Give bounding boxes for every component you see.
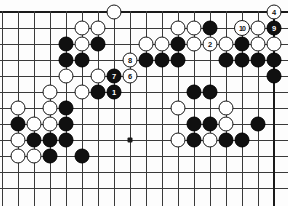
white-stone[interactable]	[43, 117, 58, 132]
go-board[interactable]: 109287614	[0, 0, 288, 206]
white-stone[interactable]	[75, 37, 90, 52]
move-stone-9[interactable]: 9	[267, 21, 282, 36]
black-stone[interactable]	[203, 85, 218, 100]
white-stone[interactable]	[27, 117, 42, 132]
black-stone[interactable]	[91, 37, 106, 52]
white-stone[interactable]	[219, 37, 234, 52]
move-stone-1[interactable]: 1	[107, 85, 122, 100]
black-stone[interactable]	[171, 37, 186, 52]
black-stone[interactable]	[75, 53, 90, 68]
black-stone[interactable]	[203, 21, 218, 36]
white-stone[interactable]	[139, 37, 154, 52]
white-stone[interactable]	[171, 101, 186, 116]
white-stone[interactable]	[251, 37, 266, 52]
white-stone[interactable]	[75, 85, 90, 100]
black-stone[interactable]	[187, 85, 202, 100]
white-stone[interactable]	[155, 37, 170, 52]
white-stone[interactable]	[107, 5, 122, 20]
white-stone[interactable]	[187, 37, 202, 52]
black-stone[interactable]	[235, 133, 250, 148]
white-stone[interactable]	[251, 21, 266, 36]
move-number-label: 1	[108, 86, 121, 99]
white-stone[interactable]	[11, 101, 26, 116]
black-stone[interactable]	[251, 53, 266, 68]
white-stone[interactable]	[75, 21, 90, 36]
white-stone[interactable]	[11, 149, 26, 164]
black-stone[interactable]	[59, 133, 74, 148]
black-stone[interactable]	[75, 149, 90, 164]
black-stone[interactable]	[59, 117, 74, 132]
white-stone[interactable]	[267, 37, 282, 52]
move-stone-7[interactable]: 7	[107, 69, 122, 84]
black-stone[interactable]	[43, 133, 58, 148]
move-number-label: 10	[235, 21, 249, 35]
move-stone-6[interactable]: 6	[123, 69, 138, 84]
black-stone[interactable]	[59, 53, 74, 68]
black-stone[interactable]	[27, 133, 42, 148]
move-stone-8[interactable]: 8	[123, 53, 138, 68]
stone-layer: 109287614	[0, 0, 288, 206]
white-stone[interactable]	[171, 21, 186, 36]
white-stone[interactable]	[171, 133, 186, 148]
white-stone[interactable]	[219, 101, 234, 116]
black-stone[interactable]	[187, 117, 202, 132]
move-stone-4[interactable]: 4	[267, 5, 282, 20]
white-stone[interactable]	[203, 133, 218, 148]
move-number-label: 4	[268, 6, 281, 19]
black-stone[interactable]	[91, 85, 106, 100]
move-stone-2[interactable]: 2	[203, 37, 218, 52]
black-stone[interactable]	[219, 133, 234, 148]
black-stone[interactable]	[235, 37, 250, 52]
black-stone[interactable]	[267, 53, 282, 68]
white-stone[interactable]	[91, 69, 106, 84]
black-stone[interactable]	[203, 117, 218, 132]
black-stone[interactable]	[267, 69, 282, 84]
move-number-label: 7	[108, 70, 121, 83]
white-stone[interactable]	[11, 133, 26, 148]
move-number-label: 2	[204, 38, 217, 51]
black-stone[interactable]	[219, 53, 234, 68]
black-stone[interactable]	[155, 53, 170, 68]
black-stone[interactable]	[139, 53, 154, 68]
black-stone[interactable]	[251, 117, 266, 132]
black-stone[interactable]	[187, 133, 202, 148]
move-number-label: 9	[268, 22, 281, 35]
white-stone[interactable]	[187, 21, 202, 36]
black-stone[interactable]	[235, 53, 250, 68]
black-stone[interactable]	[171, 53, 186, 68]
black-stone[interactable]	[11, 117, 26, 132]
black-stone[interactable]	[59, 37, 74, 52]
move-number-label: 8	[124, 54, 137, 67]
white-stone[interactable]	[219, 117, 234, 132]
move-number-label: 6	[124, 70, 137, 83]
white-stone[interactable]	[91, 21, 106, 36]
white-stone[interactable]	[27, 149, 42, 164]
move-stone-10[interactable]: 10	[234, 20, 250, 36]
white-stone[interactable]	[43, 101, 58, 116]
white-stone[interactable]	[59, 69, 74, 84]
black-stone[interactable]	[43, 149, 58, 164]
black-stone[interactable]	[59, 101, 74, 116]
white-stone[interactable]	[43, 85, 58, 100]
